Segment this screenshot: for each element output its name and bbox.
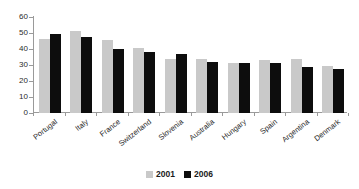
- bar-group: [70, 17, 92, 113]
- y-tick-label: 50: [19, 29, 28, 37]
- bar-2001-slovenia: [165, 59, 176, 113]
- chart-legend: 20012006: [0, 170, 359, 179]
- bar-group: [291, 17, 313, 113]
- y-tick-label: 0: [24, 109, 28, 117]
- x-tick-mark: [128, 113, 129, 116]
- bar-group: [228, 17, 250, 113]
- bar-group: [39, 17, 61, 113]
- bar-2006-italy: [81, 37, 92, 113]
- x-tick-mark: [285, 113, 286, 116]
- y-tick-label: 60: [19, 13, 28, 21]
- bar-chart: 0102030405060 PortugalItalyFranceSwitzer…: [0, 0, 359, 189]
- x-tick-mark: [159, 113, 160, 116]
- bar-2006-switzerland: [144, 52, 155, 113]
- bar-2001-hungary: [228, 63, 239, 113]
- bar-2001-spain: [259, 60, 270, 113]
- bar-2006-argentina: [302, 67, 313, 113]
- bar-2001-australia: [196, 59, 207, 113]
- x-tick-mark: [317, 113, 318, 116]
- bar-2006-france: [113, 49, 124, 113]
- x-tick-mark: [222, 113, 223, 116]
- bar-2006-spain: [270, 63, 281, 113]
- x-tick-mark: [348, 113, 349, 116]
- bar-2001-portugal: [39, 39, 50, 113]
- bar-2001-denmark: [322, 66, 333, 113]
- bar-2001-italy: [70, 31, 81, 113]
- x-tick-mark: [96, 113, 97, 116]
- x-tick-mark: [33, 113, 34, 116]
- bar-2006-australia: [207, 62, 218, 113]
- legend-entry-2006[interactable]: 2006: [184, 170, 213, 179]
- bar-group: [196, 17, 218, 113]
- bar-group: [133, 17, 155, 113]
- bar-2001-argentina: [291, 59, 302, 113]
- legend-swatch-2006-icon: [184, 171, 191, 178]
- bar-2006-slovenia: [176, 54, 187, 113]
- bar-group: [102, 17, 124, 113]
- legend-entry-2001[interactable]: 2001: [146, 170, 175, 179]
- legend-label-2001: 2001: [156, 170, 175, 179]
- x-tick-mark: [65, 113, 66, 116]
- x-tick-mark: [254, 113, 255, 116]
- plot-area: [33, 17, 348, 113]
- y-tick-label: 40: [19, 45, 28, 53]
- legend-swatch-2001-icon: [146, 171, 153, 178]
- y-tick-label: 20: [19, 77, 28, 85]
- bar-2001-france: [102, 40, 113, 113]
- bar-2001-switzerland: [133, 48, 144, 113]
- bar-group: [259, 17, 281, 113]
- legend-label-2006: 2006: [194, 170, 213, 179]
- y-tick-label: 10: [19, 93, 28, 101]
- x-tick-mark: [191, 113, 192, 116]
- bar-2006-denmark: [333, 69, 344, 113]
- bar-group: [322, 17, 344, 113]
- bar-2006-hungary: [239, 63, 250, 113]
- bar-group: [165, 17, 187, 113]
- y-tick-label: 30: [19, 61, 28, 69]
- bar-2006-portugal: [50, 34, 61, 113]
